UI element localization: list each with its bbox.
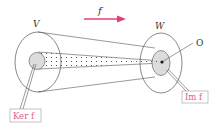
codomain-label: W (155, 21, 165, 31)
domain-label: V (33, 19, 41, 29)
kernel-region (29, 53, 45, 70)
kernel-label: Ker f (13, 111, 35, 121)
image-label: Im f (185, 92, 203, 102)
linear-map-diagram: f V W O Ker f Im f (0, 0, 217, 130)
kernel-mapping-region (38, 52, 162, 69)
origin-label: O (196, 38, 203, 48)
arrow-label: f (97, 5, 104, 16)
diagram-canvas: f V W O Ker f Im f (0, 0, 217, 130)
mapping-line-bottom (38, 77, 155, 92)
mapping-line-top (38, 32, 155, 48)
origin-leader (162, 43, 193, 62)
map-arrow (84, 16, 126, 23)
